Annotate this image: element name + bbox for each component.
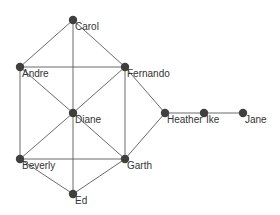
edge-diane-beverly	[20, 113, 73, 159]
node-label-beverly: Beverly	[22, 160, 55, 171]
network-graph: AndreBeverlyCarolDianeEdFernandoGarthHea…	[0, 0, 280, 215]
node-label-ed: Ed	[75, 195, 87, 206]
node-label-heather: Heather	[167, 114, 203, 125]
node-label-fernando: Fernando	[127, 68, 170, 79]
labels-layer: AndreBeverlyCarolDianeEdFernandoGarthHea…	[22, 21, 267, 206]
edge-garth-heather	[125, 113, 165, 159]
node-label-diane: Diane	[75, 114, 102, 125]
edge-andre-carol	[20, 20, 73, 67]
node-label-garth: Garth	[127, 160, 152, 171]
edge-fernando-diane	[73, 67, 125, 113]
node-label-ike: Ike	[206, 114, 220, 125]
node-label-jane: Jane	[245, 114, 267, 125]
graph-svg: AndreBeverlyCarolDianeEdFernandoGarthHea…	[0, 0, 280, 215]
node-label-carol: Carol	[75, 21, 99, 32]
node-label-andre: Andre	[22, 68, 49, 79]
edge-garth-ed	[73, 159, 125, 194]
